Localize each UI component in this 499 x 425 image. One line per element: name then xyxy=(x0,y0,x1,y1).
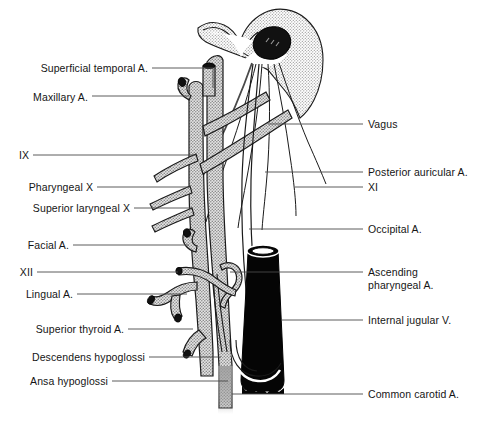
superior-laryngeal-x-branch xyxy=(152,208,194,232)
label-ascending-pharyngeal-artery: Ascending pharyngeal A. xyxy=(368,266,434,291)
label-vagus: Vagus xyxy=(368,118,398,131)
pharyngeal-x-branch xyxy=(150,186,192,210)
label-superior-laryngeal-x: Superior laryngeal X xyxy=(33,202,130,215)
xii-cut-end xyxy=(176,267,182,274)
jugular-vein-body xyxy=(241,247,284,391)
label-maxillary-artery: Maxillary A. xyxy=(33,91,88,104)
label-posterior-auricular-artery: Posterior auricular A. xyxy=(368,166,468,179)
label-lingual-artery: Lingual A. xyxy=(26,288,73,301)
label-superficial-temporal-artery: Superficial temporal A. xyxy=(41,62,148,75)
label-pharyngeal-x: Pharyngeal X xyxy=(29,181,93,194)
label-cranial-nerve-ix: IX xyxy=(19,149,29,162)
label-descendens-hypoglossi: Descendens hypoglossi xyxy=(32,351,145,364)
jugular-lumen-inner xyxy=(252,248,274,254)
label-cranial-nerve-xii: XII xyxy=(20,266,33,279)
label-internal-jugular-vein: Internal jugular V. xyxy=(368,314,451,327)
label-common-carotid-artery: Common carotid A. xyxy=(368,388,459,401)
label-ansa-hypoglossi: Ansa hypoglossi xyxy=(30,375,108,388)
label-superior-thyroid-artery: Superior thyroid A. xyxy=(36,323,124,336)
label-facial-artery: Facial A. xyxy=(28,239,69,252)
label-cranial-nerve-xi: XI xyxy=(368,181,378,194)
carotid-fade xyxy=(218,366,233,414)
label-occipital-artery: Occipital A. xyxy=(368,223,422,236)
